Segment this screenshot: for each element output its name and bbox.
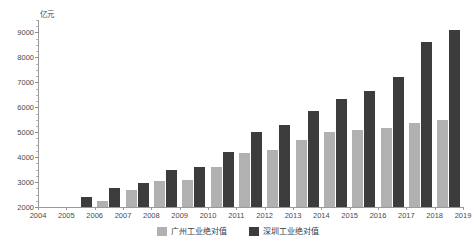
bar-shenzhen: [138, 183, 149, 207]
x-axis-tick-label: 2019: [455, 211, 472, 220]
bar-shenzhen: [109, 188, 120, 207]
x-axis-tick-mark: [236, 207, 237, 210]
x-axis-tick-label: 2017: [398, 211, 415, 220]
x-axis-tick-mark: [435, 207, 436, 210]
bar-shenzhen: [308, 111, 319, 207]
x-axis-tick-mark: [321, 207, 322, 210]
bar-guangzhou: [182, 180, 193, 207]
bar-guangzhou: [211, 167, 222, 207]
bar-guangzhou: [239, 153, 250, 207]
bar-shenzhen: [194, 167, 205, 207]
bar-shenzhen: [279, 125, 290, 207]
x-axis-tick-label: 2007: [115, 211, 132, 220]
x-axis-tick-mark: [180, 207, 181, 210]
y-axis-tick-label: 9000: [17, 28, 34, 37]
bar-guangzhou: [154, 181, 165, 207]
bar-guangzhou: [352, 130, 363, 207]
x-axis-tick-label: 2016: [370, 211, 387, 220]
bar-guangzhou: [126, 190, 137, 207]
x-axis-tick-mark: [66, 207, 67, 210]
legend-item[interactable]: 广州工业绝对值: [157, 227, 227, 236]
x-axis-tick-mark: [293, 207, 294, 210]
x-axis-tick-mark: [38, 207, 39, 210]
x-axis-tick-label: 2004: [30, 211, 47, 220]
legend-swatch-icon: [157, 227, 167, 236]
bar-guangzhou: [324, 132, 335, 207]
legend-item[interactable]: 深圳工业绝对值: [249, 227, 319, 236]
bar-shenzhen: [223, 152, 234, 207]
bar-shenzhen: [251, 132, 262, 207]
chart-legend: 广州工业绝对值深圳工业绝对值: [0, 227, 475, 236]
bars-layer: [38, 20, 463, 207]
bar-shenzhen: [393, 77, 404, 207]
bar-shenzhen: [364, 91, 375, 207]
y-axis-tick-label: 3000: [17, 178, 34, 187]
x-axis-tick-mark: [208, 207, 209, 210]
x-axis-tick-label: 2008: [143, 211, 160, 220]
legend-swatch-icon: [249, 227, 259, 236]
y-axis-tick-label: 4000: [17, 153, 34, 162]
bar-shenzhen: [449, 30, 460, 207]
bar-shenzhen: [166, 170, 177, 207]
bar-guangzhou: [97, 201, 108, 207]
bar-shenzhen: [81, 197, 92, 207]
x-axis-tick-mark: [463, 207, 464, 210]
y-axis-tick-label: 8000: [17, 53, 34, 62]
y-axis-tick-label: 7000: [17, 78, 34, 87]
x-axis-tick-mark: [123, 207, 124, 210]
bar-guangzhou: [381, 128, 392, 207]
x-axis-tick-label: 2009: [171, 211, 188, 220]
x-axis-tick-mark: [378, 207, 379, 210]
bar-guangzhou: [296, 140, 307, 207]
x-axis-line: [38, 207, 463, 208]
bar-shenzhen: [421, 42, 432, 207]
bar-guangzhou: [267, 150, 278, 207]
bar-shenzhen: [336, 99, 347, 207]
x-axis-tick-label: 2006: [86, 211, 103, 220]
bar-guangzhou: [437, 120, 448, 207]
x-axis-tick-label: 2015: [341, 211, 358, 220]
x-axis-tick-mark: [151, 207, 152, 210]
bar-chart: 亿元 20003000400050006000700080009000 2004…: [0, 0, 475, 246]
y-axis-unit-label: 亿元: [40, 8, 54, 19]
x-axis-tick-label: 2013: [285, 211, 302, 220]
x-axis-tick-label: 2014: [313, 211, 330, 220]
bar-guangzhou: [409, 123, 420, 207]
x-axis-tick-label: 2018: [426, 211, 443, 220]
x-axis-tick-mark: [406, 207, 407, 210]
y-axis-tick-label: 6000: [17, 103, 34, 112]
x-axis-tick-label: 2010: [200, 211, 217, 220]
x-axis-tick-label: 2005: [58, 211, 75, 220]
y-axis-tick-label: 5000: [17, 128, 34, 137]
legend-label: 广州工业绝对值: [171, 228, 227, 236]
x-axis-tick-label: 2011: [228, 211, 244, 220]
x-axis-tick-mark: [265, 207, 266, 210]
legend-label: 深圳工业绝对值: [263, 228, 319, 236]
x-axis-tick-mark: [350, 207, 351, 210]
x-axis-tick-label: 2012: [256, 211, 273, 220]
x-axis-tick-mark: [95, 207, 96, 210]
